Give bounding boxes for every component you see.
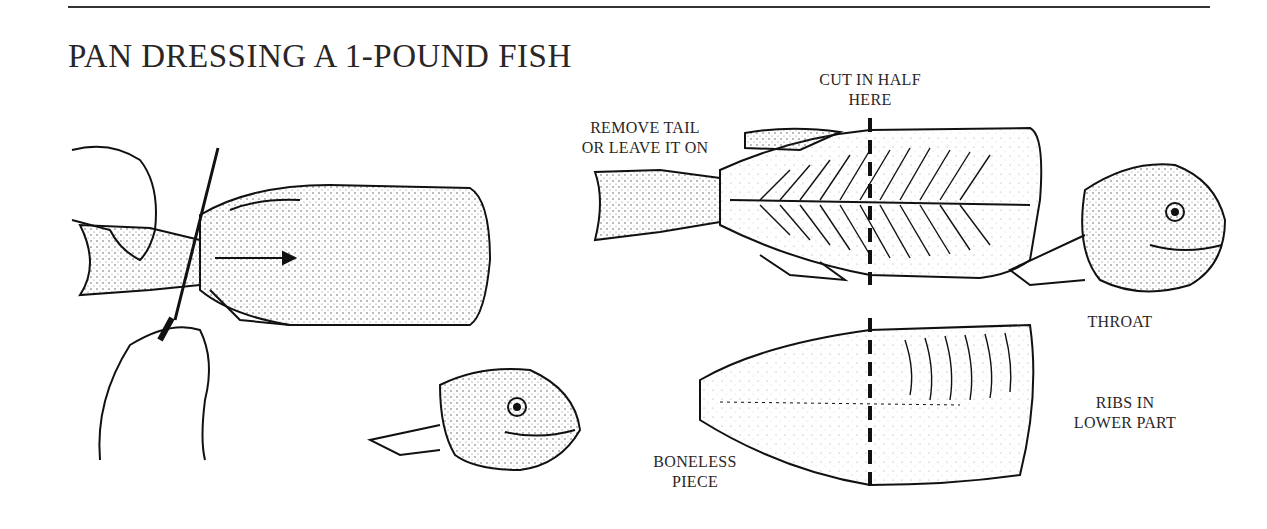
fish-with-knife-illustration bbox=[72, 147, 490, 460]
label-line: OR LEAVE IT ON bbox=[570, 138, 720, 158]
label-line: REMOVE TAIL bbox=[570, 118, 720, 138]
label-line: CUT IN HALF bbox=[800, 70, 940, 90]
label-throat: THROAT bbox=[1060, 312, 1180, 332]
label-line: HERE bbox=[800, 90, 940, 110]
label-line: PIECE bbox=[640, 472, 750, 492]
label-remove-tail: REMOVE TAIL OR LEAVE IT ON bbox=[570, 118, 720, 158]
label-ribs: RIBS IN LOWER PART bbox=[1060, 393, 1190, 433]
fish-head-illustration bbox=[370, 369, 580, 470]
label-line: RIBS IN bbox=[1060, 393, 1190, 413]
label-boneless: BONELESS PIECE bbox=[640, 452, 750, 492]
fish-illustrations bbox=[0, 0, 1267, 529]
fillet-pieces-illustration bbox=[700, 318, 1033, 490]
label-line: LOWER PART bbox=[1060, 413, 1190, 433]
label-cut-in-half: CUT IN HALF HERE bbox=[800, 70, 940, 110]
label-line: BONELESS bbox=[640, 452, 750, 472]
fish-head-throat-illustration bbox=[1010, 164, 1225, 291]
label-line: THROAT bbox=[1060, 312, 1180, 332]
